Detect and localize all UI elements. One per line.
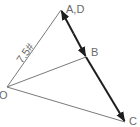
label-b: B <box>91 46 98 58</box>
vector-b-c <box>86 57 125 121</box>
label-o: O <box>0 89 8 101</box>
label-a-d: A,D <box>66 3 84 15</box>
force-vector-diagram: A,D B C O 7.5# <box>0 0 140 127</box>
label-c: C <box>129 115 137 127</box>
diagram-canvas: A,D B C O 7.5# <box>0 0 140 127</box>
label-force-magnitude: 7.5# <box>14 40 37 65</box>
vector-a-b-lower <box>74 34 86 57</box>
